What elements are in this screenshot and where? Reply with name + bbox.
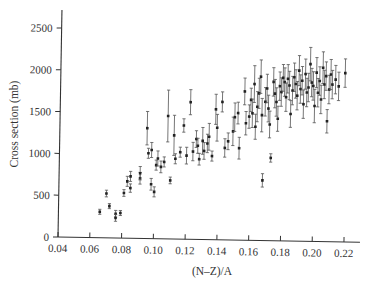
- data-point: [108, 204, 111, 209]
- data-point: [334, 65, 338, 93]
- data-point: [179, 147, 182, 157]
- data-point: [185, 147, 188, 164]
- data-point: [254, 114, 258, 139]
- data-point: [129, 184, 132, 192]
- x-tick-label: 0.22: [334, 247, 353, 259]
- x-tick-label: 0.08: [112, 243, 132, 255]
- x-tick-label: 0.14: [207, 245, 227, 257]
- x-tick-label: 0.20: [302, 246, 322, 258]
- data-point: [197, 153, 200, 165]
- data-point: [155, 160, 158, 170]
- scatter-chart: 05001000150020002500 0.040.060.080.100.1…: [0, 0, 388, 294]
- x-tick-label: 0.10: [143, 243, 163, 255]
- data-point: [233, 103, 237, 131]
- data-point: [247, 105, 251, 128]
- data-point: [169, 177, 172, 184]
- data-point: [260, 98, 264, 131]
- data-points: [98, 44, 347, 226]
- y-tick-label: 2500: [31, 21, 54, 33]
- y-axis-ticks: 05001000150020002500: [27, 21, 62, 243]
- y-tick-label: 1500: [29, 105, 52, 117]
- data-point: [226, 133, 229, 150]
- x-tick-label: 0.16: [239, 245, 259, 257]
- data-point: [150, 142, 153, 157]
- data-point: [166, 90, 170, 142]
- data-point: [269, 154, 272, 162]
- data-point: [189, 90, 193, 115]
- data-point: [126, 176, 129, 186]
- x-axis-title: (N–Z)/A: [192, 265, 233, 278]
- data-point: [119, 210, 122, 215]
- data-point: [307, 73, 311, 101]
- data-point: [149, 178, 152, 190]
- data-point: [244, 111, 248, 134]
- x-tick-label: 0.12: [175, 244, 194, 256]
- x-tick-label: 0.04: [48, 242, 68, 254]
- data-point: [236, 102, 240, 124]
- data-point: [210, 151, 213, 161]
- x-tick-label: 0.06: [80, 242, 100, 254]
- data-point: [152, 187, 155, 197]
- y-axis-title: Cross section (mb): [8, 80, 21, 167]
- x-axis-line: [58, 237, 360, 242]
- data-point: [243, 78, 247, 105]
- data-point: [343, 59, 347, 87]
- data-point: [207, 123, 211, 150]
- y-tick-label: 2000: [30, 63, 53, 75]
- data-point: [253, 66, 257, 103]
- data-point: [156, 151, 159, 166]
- data-point: [325, 110, 329, 133]
- data-point: [182, 119, 185, 132]
- data-point: [191, 142, 195, 160]
- y-tick-label: 500: [33, 189, 50, 201]
- x-tick-label: 0.18: [270, 246, 290, 258]
- data-point: [337, 72, 341, 100]
- data-point: [221, 92, 225, 112]
- data-point: [147, 148, 150, 158]
- data-point: [114, 215, 117, 222]
- data-point: [159, 161, 162, 173]
- y-axis-line: [58, 10, 62, 237]
- data-point: [122, 190, 125, 197]
- data-point: [163, 157, 166, 167]
- y-tick-label: 1000: [28, 147, 51, 159]
- data-point: [98, 209, 101, 214]
- data-point: [223, 139, 227, 157]
- data-point: [259, 60, 263, 93]
- data-point: [237, 137, 241, 159]
- data-point: [324, 62, 328, 90]
- x-axis-ticks: 0.040.060.080.100.120.140.160.180.200.22: [48, 232, 354, 259]
- data-point: [145, 111, 149, 144]
- data-point: [129, 171, 132, 181]
- data-point: [261, 174, 264, 187]
- data-point: [172, 115, 176, 155]
- data-point: [105, 190, 108, 197]
